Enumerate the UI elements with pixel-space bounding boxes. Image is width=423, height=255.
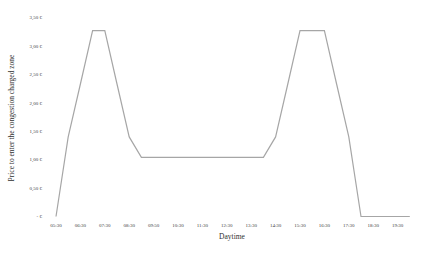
x-tick-label: 10:30 (172, 223, 184, 228)
y-tick-label: 1,00 € (30, 157, 43, 163)
y-axis-title: Price to enter the congestion charged zo… (7, 54, 16, 182)
x-tick-label: 11:30 (197, 223, 209, 228)
x-tick-label: 17:30 (343, 223, 355, 228)
y-tick-label: 3,00 € (30, 44, 43, 50)
y-tick-label: 3,50 € (30, 15, 43, 21)
x-tick-label: 07:30 (99, 223, 111, 228)
x-tick-label: 18:30 (368, 223, 380, 228)
x-tick-label: 13:30 (246, 223, 258, 228)
y-tick-label: 2,00 € (30, 101, 43, 107)
y-tick-label: 1,50 € (30, 129, 43, 135)
price-line (56, 31, 410, 217)
x-tick-label: 05:30 (50, 223, 62, 228)
x-tick-label: 08:30 (124, 223, 136, 228)
x-tick-label: 09:50 (148, 223, 160, 228)
x-axis-title: Daytime (219, 232, 245, 241)
x-tick-label: 14:30 (270, 223, 282, 228)
line-chart: - €0,50 €1,00 €1,50 €2,00 €2,50 €3,00 €3… (0, 0, 423, 255)
y-axis-ticks: - €0,50 €1,00 €1,50 €2,00 €2,50 €3,00 €3… (30, 15, 43, 219)
y-tick-label: 0,50 € (30, 186, 43, 192)
x-axis-ticks: 05:3006:3007:3008:3009:5010:3011:3012:30… (50, 223, 403, 228)
x-tick-label: 19:30 (392, 223, 404, 228)
x-tick-label: 16:30 (319, 223, 331, 228)
y-tick-label: 2,50 € (30, 72, 43, 78)
x-tick-label: 06:30 (75, 223, 87, 228)
y-tick-label: - € (37, 214, 43, 219)
x-tick-label: 15:30 (294, 223, 306, 228)
x-tick-label: 12:30 (221, 223, 233, 228)
